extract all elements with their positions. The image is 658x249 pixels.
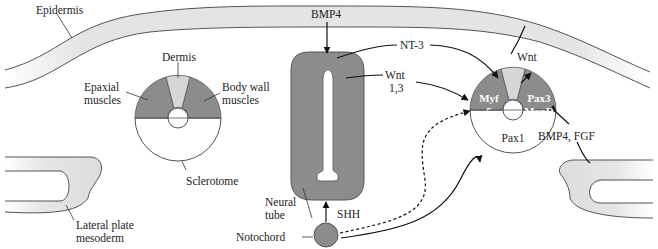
label-neural-2: tube <box>265 209 285 222</box>
label-epaxial-1: Epaxial <box>84 81 119 94</box>
label-nt3: NT-3 <box>400 39 424 52</box>
label-epaxial-2: muscles <box>84 94 121 107</box>
label-wnt13-1: Wnt <box>385 69 405 82</box>
lateral-plate-left <box>5 157 102 213</box>
label-epidermis: Epidermis <box>36 4 83 17</box>
label-bodywall-1: Body wall <box>222 81 270 94</box>
label-lateral-2: mesoderm <box>76 232 124 245</box>
label-lateral-1: Lateral plate <box>76 219 134 232</box>
label-bmp4-fgf: BMP4, FGF <box>538 130 595 143</box>
left-somite <box>135 75 221 161</box>
nt3-arrow <box>430 45 498 78</box>
label-wnt-right: Wnt <box>517 51 537 64</box>
label-wnt13-2: 1,3 <box>389 82 403 95</box>
label-pax3: Pax3 <box>521 92 557 105</box>
bmp4-fgf-arrow <box>556 112 569 124</box>
epidermis-leader <box>57 14 72 38</box>
label-myf5-1: Myf <box>475 92 503 105</box>
label-notochord: Notochord <box>236 231 285 244</box>
label-bmp4-top: BMP4 <box>311 8 341 21</box>
notochord <box>314 223 338 247</box>
lateral-plate-right <box>559 160 653 218</box>
wnt13-arrow <box>416 82 468 100</box>
diagram-canvas <box>0 0 658 249</box>
label-myod: MyoD <box>521 105 557 118</box>
label-sclerotome: Sclerotome <box>186 175 238 188</box>
label-myf5-2: 5 <box>475 105 503 118</box>
label-dermis: Dermis <box>160 51 198 64</box>
label-neural-1: Neural <box>265 196 296 209</box>
label-pax1: Pax1 <box>493 132 533 145</box>
neural-tube <box>291 52 364 200</box>
label-bodywall-2: muscles <box>222 94 259 107</box>
label-shh: SHH <box>337 208 360 221</box>
